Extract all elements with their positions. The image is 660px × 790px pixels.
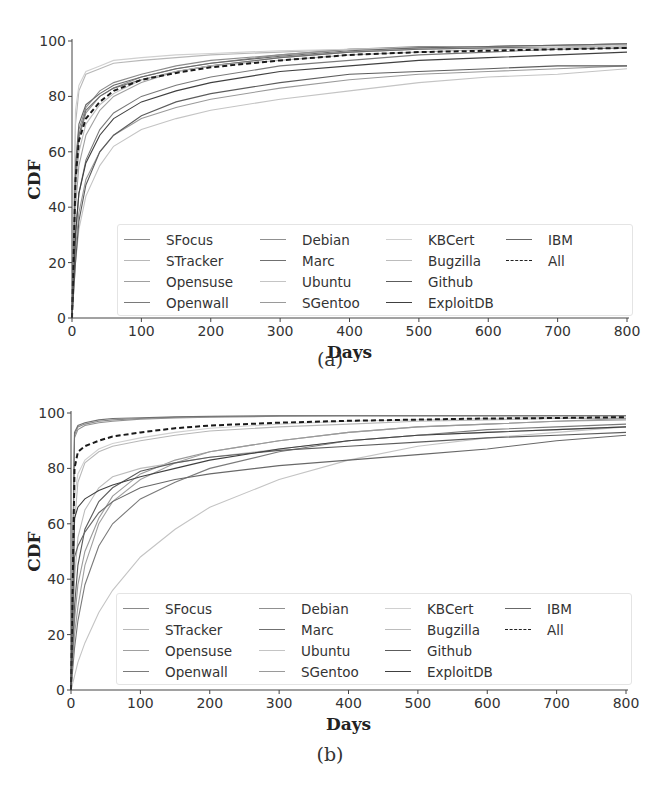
legend-item-sgentoo: SGentoo: [259, 661, 385, 682]
legend-swatch: [385, 629, 411, 630]
legend-label: Debian: [301, 601, 349, 617]
legend-item-debian: Debian: [260, 229, 386, 250]
legend-item-exploitdb: ExploitDB: [386, 292, 506, 313]
legend-label: KBCert: [428, 232, 474, 248]
legend-swatch: [505, 629, 531, 630]
legend-label: Opensuse: [166, 274, 233, 290]
legend-swatch: [386, 239, 412, 240]
legend-swatch: [386, 302, 412, 303]
legend-swatch: [506, 260, 532, 261]
caption-b: (b): [0, 743, 660, 765]
x-tick-label: 100: [127, 695, 154, 711]
x-tick-label: 400: [335, 695, 362, 711]
x-tick-label: 200: [196, 695, 223, 711]
legend-item-all: All: [505, 619, 625, 640]
legend-label: Openwall: [166, 295, 229, 311]
legend-swatch: [259, 671, 285, 672]
chart-panel-b: 0100200300400500600700800020406080100Day…: [0, 395, 660, 790]
legend-item-ubuntu: Ubuntu: [260, 271, 386, 292]
legend-swatch: [260, 281, 286, 282]
legend-label: Openwall: [165, 664, 228, 680]
legend-swatch: [124, 260, 150, 261]
legend-item-all: All: [506, 250, 626, 271]
legend-swatch: [506, 239, 532, 240]
legend-item-kbcert: KBCert: [386, 229, 506, 250]
legend-label: STracker: [166, 253, 223, 269]
legend-label: KBCert: [427, 601, 473, 617]
legend-item-sgentoo: SGentoo: [260, 292, 386, 313]
chart-panel-a: 0100200300400500600700800020406080100Day…: [0, 0, 660, 395]
legend-swatch: [386, 260, 412, 261]
legend-swatch: [259, 629, 285, 630]
x-tick-label: 100: [128, 323, 155, 339]
y-axis-title: CDF: [24, 531, 44, 571]
legend-label: SFocus: [165, 601, 212, 617]
legend-label: All: [547, 622, 564, 638]
legend-swatch: [259, 608, 285, 609]
legend-label: Github: [428, 274, 473, 290]
caption-a: (a): [0, 348, 660, 370]
legend-label: STracker: [165, 622, 222, 638]
legend-swatch: [385, 608, 411, 609]
legend-swatch: [260, 239, 286, 240]
legend-swatch: [123, 671, 149, 672]
legend-swatch: [123, 650, 149, 651]
legend-swatch: [260, 302, 286, 303]
legend-swatch: [386, 281, 412, 282]
x-tick-label: 0: [67, 695, 76, 711]
x-tick-label: 500: [405, 695, 432, 711]
legend-b: SFocusDebianKBCertIBMSTrackerMarcBugzill…: [116, 593, 632, 685]
y-tick-label: 40: [48, 199, 66, 215]
legend-item-sfocus: SFocus: [123, 598, 259, 619]
legend-swatch: [259, 650, 285, 651]
legend-item-openwall: Openwall: [123, 661, 259, 682]
legend-item-bugzilla: Bugzilla: [385, 619, 505, 640]
legend-label: ExploitDB: [428, 295, 494, 311]
x-tick-label: 700: [544, 323, 571, 339]
legend-item-ubuntu: Ubuntu: [259, 640, 385, 661]
legend-label: Debian: [302, 232, 350, 248]
x-tick-label: 400: [336, 323, 363, 339]
legend-item-debian: Debian: [259, 598, 385, 619]
legend-swatch: [385, 650, 411, 651]
x-tick-label: 200: [197, 323, 224, 339]
legend-item-bugzilla: Bugzilla: [386, 250, 506, 271]
legend-label: SFocus: [166, 232, 213, 248]
y-axis-title: CDF: [24, 159, 44, 199]
legend-item-ibm: IBM: [506, 229, 626, 250]
x-tick-label: 600: [474, 695, 501, 711]
legend-item-ibm: IBM: [505, 598, 625, 619]
legend-item-sfocus: SFocus: [124, 229, 260, 250]
legend-swatch: [123, 629, 149, 630]
legend-item-stracker: STracker: [123, 619, 259, 640]
x-tick-label: 300: [267, 323, 294, 339]
y-tick-label: 20: [47, 627, 65, 643]
legend-label: Bugzilla: [428, 253, 481, 269]
x-tick-label: 300: [266, 695, 293, 711]
legend-label: Github: [427, 643, 472, 659]
legend-item-github: Github: [386, 271, 506, 292]
y-tick-label: 20: [48, 255, 66, 271]
y-tick-label: 0: [57, 310, 66, 326]
legend-label: Marc: [301, 622, 334, 638]
y-tick-label: 40: [47, 571, 65, 587]
legend-swatch: [123, 608, 149, 609]
legend-label: Opensuse: [165, 643, 232, 659]
legend-label: Ubuntu: [301, 643, 350, 659]
x-tick-label: 800: [613, 695, 640, 711]
legend-label: IBM: [548, 232, 573, 248]
y-tick-label: 100: [38, 405, 65, 421]
y-tick-label: 100: [39, 33, 66, 49]
legend-label: Ubuntu: [302, 274, 351, 290]
legend-item-stracker: STracker: [124, 250, 260, 271]
y-tick-label: 60: [48, 144, 66, 160]
x-tick-label: 0: [68, 323, 77, 339]
legend-swatch: [260, 260, 286, 261]
y-tick-label: 0: [56, 682, 65, 698]
legend-label: Bugzilla: [427, 622, 480, 638]
legend-label: SGentoo: [301, 664, 359, 680]
legend-item-openwall: Openwall: [124, 292, 260, 313]
x-axis-title: Days: [326, 714, 371, 734]
x-tick-label: 700: [543, 695, 570, 711]
x-tick-label: 600: [475, 323, 502, 339]
